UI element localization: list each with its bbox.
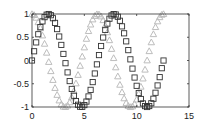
sin-marker-square: [132, 75, 137, 80]
cos-marker-triangle: [50, 77, 56, 83]
sin-marker-square: [122, 31, 127, 36]
sin-marker-square: [130, 66, 135, 71]
y-tick-label: -0.5: [13, 79, 29, 89]
sin-marker-square: [57, 34, 62, 39]
x-tick-label: 10: [132, 111, 142, 121]
sin-marker-square: [119, 24, 124, 29]
cos-marker-triangle: [154, 18, 160, 24]
cos-marker-triangle: [110, 55, 116, 61]
sin-marker-square: [153, 90, 158, 95]
sin-marker-square: [96, 52, 101, 57]
x-tick-label: 15: [184, 111, 194, 121]
y-tick-label: 1: [24, 9, 29, 19]
sin-marker-square: [101, 35, 106, 40]
sin-marker-square: [88, 87, 93, 92]
cos-marker-triangle: [115, 73, 121, 79]
cos-marker-triangle: [71, 88, 77, 94]
sin-marker-square: [98, 43, 103, 48]
cos-marker-triangle: [43, 49, 49, 55]
cos-marker-triangle: [108, 46, 114, 52]
sin-marker-square: [92, 71, 97, 76]
sin-marker-square: [67, 78, 72, 83]
cos-marker-triangle: [144, 57, 150, 63]
sin-marker-square: [63, 61, 68, 66]
sin-marker-square: [55, 26, 60, 31]
cos-marker-triangle: [148, 39, 154, 45]
cos-marker-triangle: [46, 59, 52, 65]
sin-marker-square: [157, 75, 162, 80]
sin-marker-square: [86, 94, 91, 99]
sin-marker-square: [161, 58, 166, 63]
cos-marker-triangle: [150, 31, 156, 37]
cos-marker-triangle: [75, 72, 81, 78]
cos-marker-triangle: [119, 89, 125, 95]
sin-marker-square: [59, 42, 64, 47]
sin-marker-square: [34, 40, 39, 45]
cos-marker-triangle: [146, 48, 152, 54]
sin-marker-square: [126, 48, 131, 53]
y-tick-label: -1: [21, 102, 29, 112]
cos-marker-triangle: [69, 94, 75, 100]
sin-marker-square: [159, 66, 164, 71]
x-tick-label: 0: [29, 111, 34, 121]
chart: 05101510.50-0.5-1: [0, 0, 200, 129]
cos-marker-triangle: [113, 64, 119, 70]
cos-marker-triangle: [142, 66, 148, 72]
y-tick-label: 0.5: [16, 32, 29, 42]
cos-marker-triangle: [79, 53, 85, 59]
cos-marker-triangle: [48, 68, 54, 74]
sin-marker-square: [155, 83, 160, 88]
cos-marker-triangle: [140, 75, 146, 81]
cos-marker-triangle: [41, 40, 47, 46]
cos-marker-triangle: [81, 44, 87, 50]
cos-marker-triangle: [52, 85, 58, 91]
cos-marker-triangle: [77, 63, 83, 69]
x-tick-label: 5: [82, 111, 87, 121]
cos-marker-triangle: [106, 37, 112, 43]
sin-marker-square: [94, 62, 99, 67]
sin-marker-square: [128, 57, 133, 62]
y-tick-label: 0: [24, 56, 29, 66]
cos-marker-triangle: [117, 81, 123, 87]
cos-marker-triangle: [152, 24, 158, 30]
plot-markers: [29, 11, 167, 110]
cos-marker-triangle: [83, 36, 89, 42]
sin-marker-square: [124, 39, 129, 44]
cos-marker-triangle: [85, 28, 91, 34]
sin-marker-square: [84, 99, 89, 104]
sin-marker-square: [61, 51, 66, 56]
cos-marker-triangle: [73, 80, 79, 86]
sin-marker-square: [90, 80, 95, 85]
cos-marker-triangle: [104, 29, 110, 35]
sin-marker-square: [65, 70, 70, 75]
